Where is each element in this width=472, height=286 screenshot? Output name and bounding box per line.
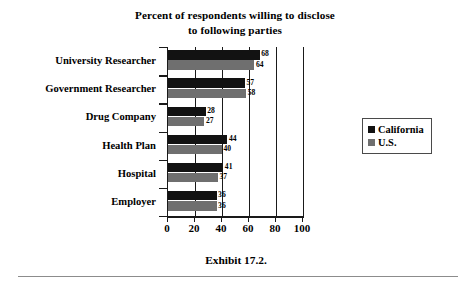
x-tick-label-100: 100 — [294, 222, 311, 235]
y-tick — [159, 188, 167, 189]
category-label-university-researcher: University Researcher — [8, 55, 156, 67]
bar — [168, 201, 217, 210]
x-axis-tick-labels: 020406080100 — [167, 222, 303, 238]
legend-swatch-icon — [368, 126, 375, 133]
y-tick — [159, 132, 167, 133]
legend-item: California — [368, 123, 424, 136]
bar-value-label: 36 — [218, 190, 226, 199]
x-tick-label-20: 20 — [189, 222, 200, 235]
horizontal-rule — [18, 276, 458, 277]
bar — [168, 191, 217, 200]
category-label-hospital: Hospital — [8, 168, 156, 180]
bar — [168, 163, 223, 172]
legend-label: California — [378, 124, 424, 136]
bar — [168, 117, 204, 126]
y-tick — [159, 103, 167, 104]
chart-title-line-2: to following parties — [60, 23, 410, 38]
x-tick-20 — [194, 217, 195, 222]
bar — [168, 78, 245, 87]
legend-swatch-icon — [368, 139, 375, 146]
y-tick — [159, 47, 167, 48]
bar — [168, 145, 222, 154]
bar-group: 6864 — [168, 47, 303, 75]
bar-value-label: 44 — [229, 134, 237, 143]
y-tick — [159, 216, 167, 217]
bar — [168, 135, 227, 144]
chart-title-line-1: Percent of respondents willing to disclo… — [60, 8, 410, 23]
chart-figure: Percent of respondents willing to disclo… — [0, 0, 472, 286]
category-axis-labels: University ResearcherGovernment Research… — [8, 47, 156, 216]
x-tick-100 — [302, 217, 303, 222]
bar — [168, 107, 206, 116]
x-tick-0 — [167, 217, 168, 222]
legend-item: U.S. — [368, 136, 424, 149]
bar-group: 4440 — [168, 132, 303, 160]
category-label-employer: Employer — [8, 196, 156, 208]
bar-value-label: 37 — [219, 172, 227, 181]
bar-value-label: 41 — [225, 162, 233, 171]
x-tick-label-80: 80 — [270, 222, 281, 235]
bar-value-label: 40 — [224, 144, 232, 153]
y-axis-tick-marks — [159, 47, 167, 217]
bar-value-label: 28 — [207, 106, 215, 115]
bar-rows: 686457582827444041373636 — [168, 47, 303, 216]
bar — [168, 173, 218, 182]
category-label-government-researcher: Government Researcher — [8, 83, 156, 95]
x-tick-label-40: 40 — [216, 222, 227, 235]
category-label-health-plan: Health Plan — [8, 140, 156, 152]
bar-value-label: 68 — [261, 49, 269, 58]
bar-value-label: 57 — [246, 78, 254, 87]
chart-title: Percent of respondents willing to disclo… — [60, 8, 410, 37]
y-tick — [159, 160, 167, 161]
bar-group: 5758 — [168, 75, 303, 103]
y-tick — [159, 75, 167, 76]
x-tick-40 — [221, 217, 222, 222]
x-tick-label-0: 0 — [164, 222, 170, 235]
bar-value-label: 64 — [256, 60, 264, 69]
legend-label: U.S. — [378, 137, 396, 149]
x-tick-80 — [275, 217, 276, 222]
bar-value-label: 36 — [218, 201, 226, 210]
x-tick-60 — [248, 217, 249, 222]
plot-area: 686457582827444041373636 — [167, 47, 304, 216]
figure-caption: Exhibit 17.2. — [0, 253, 472, 267]
x-tick-label-60: 60 — [243, 222, 254, 235]
bar-group: 3636 — [168, 188, 303, 216]
bar — [168, 60, 254, 69]
bar-value-label: 58 — [248, 88, 256, 97]
category-label-drug-company: Drug Company — [8, 111, 156, 123]
chart-legend: CaliforniaU.S. — [362, 118, 432, 154]
bar — [168, 89, 246, 98]
bar-value-label: 27 — [206, 116, 214, 125]
bar-group: 2827 — [168, 103, 303, 131]
bar-group: 4137 — [168, 160, 303, 188]
bar — [168, 50, 260, 59]
